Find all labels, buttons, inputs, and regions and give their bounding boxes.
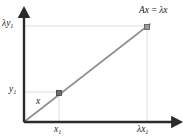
x-subscript: 1 [145, 128, 148, 135]
x-subscript: 1 [58, 128, 61, 135]
eigen-ray [24, 24, 150, 122]
vector-label-x: x [36, 97, 40, 107]
y-subscript: 1 [13, 88, 16, 95]
point-marker-x [57, 91, 62, 96]
x-axis-tick-label-lambda-x1: λx1 [137, 125, 148, 135]
point-marker-lambda-x [145, 25, 150, 30]
equation-label: Ax = λx [139, 6, 167, 16]
equation-rhs: λx [159, 5, 167, 15]
eigenvector-figure: λy1 y1 x1 λx1 x Ax = λx [0, 0, 185, 140]
x-axis-tick-label-x1: x1 [54, 125, 61, 135]
y-axis-tick-label-y1: y1 [9, 85, 16, 95]
y-axis-tick-label-lambda-y1: λy1 [2, 19, 13, 29]
axes [24, 15, 174, 122]
figure-canvas [0, 0, 185, 140]
y-subscript: 1 [10, 22, 13, 29]
equation-lhs: Ax [139, 5, 149, 15]
